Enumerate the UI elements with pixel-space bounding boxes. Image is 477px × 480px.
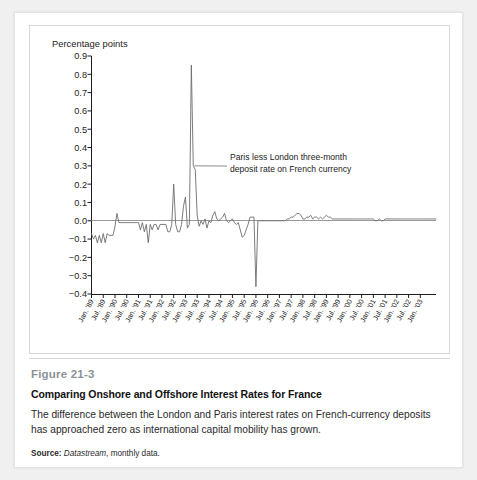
chart-svg: Percentage points 0.90.80.70.60.50.40.30…: [30, 26, 449, 353]
x-axis-tick-labels: Jan. '89Jul. '89Jan. '90Jul. '90Jan. '91…: [76, 298, 425, 324]
figure-number: Figure 21-3: [31, 368, 450, 380]
data-series-line: [92, 65, 437, 287]
y-tick-label: 0.3: [74, 161, 87, 171]
y-tick-label: 0.9: [74, 51, 87, 61]
y-axis-tick-labels: 0.90.80.70.60.50.40.30.20.10.0−0.1−0.2−0…: [69, 51, 87, 299]
y-tick-label: 0.1: [74, 198, 87, 208]
y-tick-label: −0.3: [69, 271, 87, 281]
figure-card: Percentage points 0.90.80.70.60.50.40.30…: [14, 12, 463, 468]
chart-panel: Percentage points 0.90.80.70.60.50.40.30…: [29, 25, 450, 354]
figure-title: Comparing Onshore and Offshore Interest …: [31, 388, 450, 400]
y-tick-label: −0.1: [69, 234, 87, 244]
figure-source: Source: Datastream, monthly data.: [31, 449, 450, 458]
y-axis-caption: Percentage points: [52, 38, 128, 49]
annotation-line-2: deposit rate on French currency: [230, 164, 352, 174]
y-tick-label: 0.5: [74, 125, 87, 135]
y-tick-label: 0.7: [74, 88, 87, 98]
y-tick-label: −0.4: [69, 289, 87, 299]
y-tick-label: 0.0: [74, 216, 87, 226]
annotation-line-1: Paris less London three-month: [230, 152, 347, 162]
caption-divider: [29, 358, 450, 359]
y-axis-tick-marks: [88, 56, 92, 294]
y-tick-label: −0.2: [69, 253, 87, 263]
y-tick-label: 0.2: [74, 180, 87, 190]
figure-description: The difference between the London and Pa…: [31, 408, 431, 438]
source-name: Datastream: [64, 449, 106, 458]
source-label: Source:: [31, 449, 61, 458]
source-rest: , monthly data.: [106, 449, 160, 458]
y-tick-label: 0.6: [74, 106, 87, 116]
caption-block: Figure 21-3 Comparing Onshore and Offsho…: [29, 358, 450, 458]
y-tick-label: 0.8: [74, 70, 87, 80]
y-tick-label: 0.4: [74, 143, 87, 153]
